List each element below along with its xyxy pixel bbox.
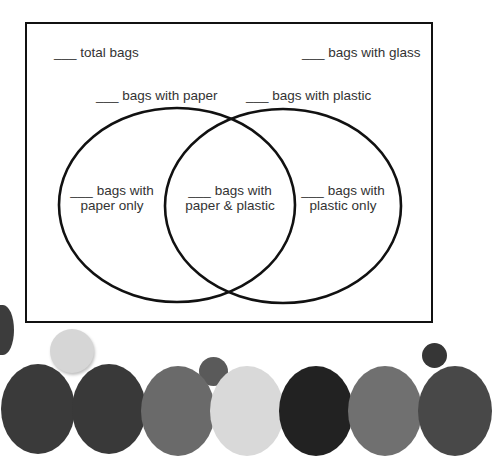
total-text: total bags	[80, 45, 139, 60]
paper-only-line2: paper only	[62, 198, 162, 213]
blank: ___	[301, 183, 324, 198]
decor-circle	[422, 343, 447, 368]
blank: ___	[96, 88, 119, 103]
plastic-only-line2: plastic only	[293, 198, 393, 213]
plastic-text: bags with plastic	[272, 88, 371, 103]
decor-circle	[418, 366, 492, 456]
paper-only-line1: bags with	[97, 183, 154, 198]
glass-bags-label: ___ bags with glass	[302, 45, 421, 60]
decor-circle	[348, 366, 422, 456]
both-region-label: ___ bags with paper & plastic	[180, 183, 280, 213]
blank: ___	[246, 88, 269, 103]
decor-circle	[141, 366, 215, 456]
blank: ___	[188, 183, 211, 198]
blank: ___	[302, 45, 325, 60]
both-line1: bags with	[215, 183, 272, 198]
decor-circle	[50, 329, 94, 373]
glass-text: bags with glass	[328, 45, 420, 60]
paper-bags-label: ___ bags with paper	[96, 88, 218, 103]
both-line2: paper & plastic	[180, 198, 280, 213]
blank: ___	[70, 183, 93, 198]
decor-circle	[210, 366, 284, 456]
plastic-only-region-label: ___ bags with plastic only	[293, 183, 393, 213]
plastic-bags-label: ___ bags with plastic	[246, 88, 371, 103]
blank: ___	[54, 45, 77, 60]
paper-only-region-label: ___ bags with paper only	[62, 183, 162, 213]
decor-circle	[279, 366, 353, 456]
paper-text: bags with paper	[122, 88, 217, 103]
plastic-only-line1: bags with	[328, 183, 385, 198]
total-bags-label: ___ total bags	[54, 45, 139, 60]
decor-circle	[1, 364, 75, 454]
decor-circle	[72, 364, 146, 454]
